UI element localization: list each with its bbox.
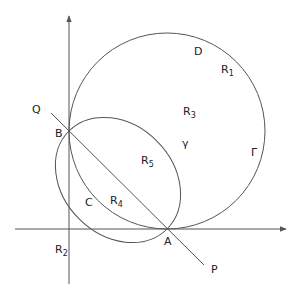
label-region-r4: R4 [110,195,123,209]
label-small-gamma: γ [182,138,189,149]
label-big-gamma: Γ [251,147,257,158]
label-b: B [55,128,63,139]
label-q: Q [32,104,41,115]
label-p: P [211,264,218,275]
diagram-canvas: Q B D C A P Γ γ R1 R2 R3 R4 R5 [0,0,299,300]
label-region-r2: R2 [55,244,68,258]
label-region-r5: R5 [141,155,154,169]
big-circle-gamma [69,33,265,229]
label-region-r1: R1 [221,64,234,78]
label-a: A [164,236,172,247]
label-region-r3: R3 [183,106,196,120]
label-c: C [85,197,93,208]
label-d: D [194,46,202,57]
